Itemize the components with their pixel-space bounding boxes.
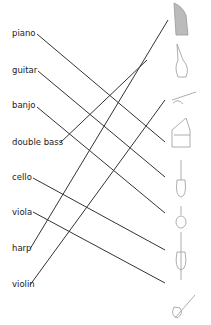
banjo-icon [172, 92, 196, 104]
violin-icon [173, 295, 195, 318]
double-bass-icon [176, 44, 187, 77]
harp-icon [174, 3, 188, 35]
connector-lines [0, 0, 211, 325]
piano-icon [172, 118, 190, 147]
matching-diagram: piano guitar banjo double bass cello vio… [0, 0, 211, 325]
guitar-icon [177, 160, 186, 197]
cello-icon [176, 232, 186, 280]
viola-icon [176, 206, 186, 228]
